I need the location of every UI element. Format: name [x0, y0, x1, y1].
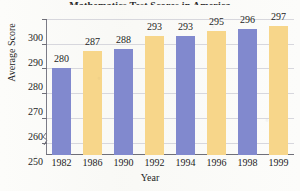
- y-axis-tick-label: 290: [3, 58, 43, 68]
- x-axis-tick-label: 1990: [109, 158, 139, 168]
- bar-value-label: 297: [271, 12, 286, 22]
- bar-fill: [207, 31, 226, 155]
- y-axis-tick-label: 300: [3, 33, 43, 43]
- bar-value-label: 295: [209, 17, 224, 27]
- x-axis-tick-label: 1986: [78, 158, 108, 168]
- bar-value-label: 287: [85, 37, 100, 47]
- bar-value-label: 293: [147, 22, 162, 32]
- plot-area: 280287288293293295296297: [46, 19, 294, 155]
- y-axis-tick: [42, 93, 47, 94]
- y-axis-tick-labels: 300290280270260250: [0, 19, 43, 155]
- chart-title-text: Mathematics Test Scores in America: [69, 1, 231, 5]
- y-axis-tick-label: 270: [3, 107, 43, 117]
- gridline: [46, 19, 294, 20]
- x-axis-tick-label: 1998: [233, 158, 263, 168]
- bar: 288: [114, 49, 133, 155]
- x-axis-tick-label: 1982: [47, 158, 77, 168]
- bar: 280: [52, 68, 71, 155]
- bar-chart-figure: Mathematics Test Scores in America Avera…: [0, 0, 300, 191]
- bar-fill: [269, 26, 288, 155]
- bar-fill: [52, 68, 71, 155]
- bar-fill: [114, 49, 133, 155]
- bar-fill: [238, 29, 257, 155]
- bar-fill: [83, 51, 102, 155]
- bar-value-label: 288: [116, 35, 131, 45]
- bar: 295: [207, 31, 226, 155]
- bar: 293: [176, 36, 195, 155]
- bar: 287: [83, 51, 102, 155]
- x-axis-tick-label: 1992: [140, 158, 170, 168]
- bar-fill: [176, 36, 195, 155]
- chart-title-clipped: Mathematics Test Scores in America: [0, 0, 300, 5]
- bar-fill: [145, 36, 164, 155]
- bar-value-label: 293: [178, 22, 193, 32]
- x-axis-title: Year: [0, 172, 300, 183]
- bar: 296: [238, 29, 257, 155]
- bar-value-label: 280: [54, 54, 69, 64]
- bar: 297: [269, 26, 288, 155]
- y-axis-tick: [42, 68, 47, 69]
- x-axis-tick-label: 1996: [202, 158, 232, 168]
- x-axis-tick-label: 1999: [264, 158, 294, 168]
- y-axis-tick-label: 250: [3, 157, 43, 167]
- x-axis-tick-label: 1994: [171, 158, 201, 168]
- y-axis-tick-label: 260: [3, 132, 43, 142]
- bar: 293: [145, 36, 164, 155]
- y-axis-tick: [42, 118, 47, 119]
- y-axis-line: [46, 19, 47, 155]
- bar-value-label: 296: [240, 15, 255, 25]
- y-axis-tick-label: 280: [3, 82, 43, 92]
- y-axis-tick: [42, 19, 47, 20]
- y-axis-tick: [42, 143, 47, 144]
- y-axis-tick: [42, 44, 47, 45]
